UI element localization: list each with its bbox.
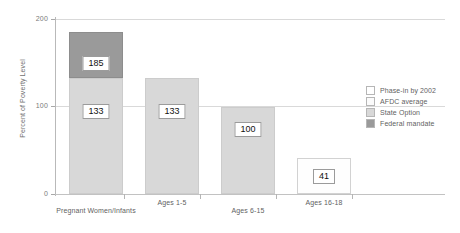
x-tick-mark-4 xyxy=(352,194,353,199)
y-axis-title: Percent of Poverty Level xyxy=(19,34,26,164)
legend: Phase-in by 2002 AFDC average State Opti… xyxy=(366,85,436,129)
y-tick-label-0: 0 xyxy=(18,190,48,197)
x-axis-line xyxy=(55,194,445,195)
legend-swatch-icon-state-option xyxy=(366,108,375,117)
x-axis-label-ages-16-18: Ages 16-18 xyxy=(306,199,343,206)
legend-label-afdc-average: AFDC average xyxy=(380,98,428,105)
legend-item-phase-in-by-2002[interactable]: Phase-in by 2002 xyxy=(366,85,436,95)
x-tick-mark-1 xyxy=(124,194,125,199)
value-label-41: 41 xyxy=(313,169,335,184)
legend-item-state-option[interactable]: State Option xyxy=(366,107,436,117)
legend-label-federal-mandate: Federal mandate xyxy=(380,120,434,127)
value-label-133-infants: 133 xyxy=(82,104,109,119)
x-axis-label-ages-6-15: Ages 6-15 xyxy=(232,207,265,214)
bar-segment-federal-mandate[interactable] xyxy=(69,32,123,78)
legend-item-federal-mandate[interactable]: Federal mandate xyxy=(366,118,436,128)
y-tick-label-200: 200 xyxy=(18,15,48,22)
legend-label-phase-in-by-2002: Phase-in by 2002 xyxy=(380,87,436,94)
legend-item-afdc-average[interactable]: AFDC average xyxy=(366,96,436,106)
bar-ages-16-18[interactable]: 41 xyxy=(297,158,351,194)
plot-area: 185 133 133 100 41 xyxy=(55,19,362,194)
y-tick-label-100: 100 xyxy=(18,102,48,109)
x-tick-mark-2 xyxy=(200,194,201,199)
bar-segment-state-option[interactable] xyxy=(145,78,199,194)
x-axis-label-pregnant-women-infants: Pregnant Women/Infants xyxy=(56,207,136,214)
bar-pregnant-women-infants[interactable]: 185 133 xyxy=(69,32,123,194)
bar-segment-state-option[interactable] xyxy=(69,78,123,194)
bar-ages-6-15[interactable]: 100 xyxy=(221,107,275,194)
value-label-185: 185 xyxy=(82,56,109,71)
legend-swatch-icon-afdc xyxy=(366,97,375,106)
chart-container: Percent of Poverty Level 200 100 0 185 1… xyxy=(0,0,460,233)
legend-label-state-option: State Option xyxy=(380,109,420,116)
value-label-133-ages1-5: 133 xyxy=(158,104,185,119)
value-label-100: 100 xyxy=(234,122,261,137)
x-axis-label-ages-1-5: Ages 1-5 xyxy=(158,199,187,206)
bar-ages-1-5[interactable]: 133 xyxy=(145,78,199,194)
x-tick-mark-3 xyxy=(276,194,277,199)
legend-swatch-icon-federal-mandate xyxy=(366,119,375,128)
bar-segment-state-option[interactable] xyxy=(221,107,275,194)
legend-swatch-icon-phase-in xyxy=(366,86,375,95)
